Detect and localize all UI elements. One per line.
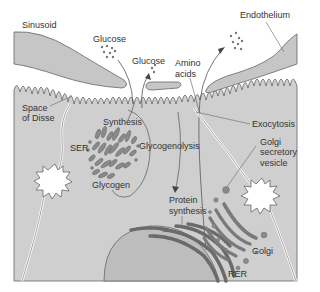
label-exocytosis: Exocytosis <box>252 119 295 129</box>
label-golgi: Golgi <box>252 246 273 256</box>
label-amino-acids-line1: Amino <box>175 58 201 68</box>
label-amino-acids-line2: acids <box>175 69 196 79</box>
label-glucose-1: Glucose <box>93 34 126 44</box>
label-glycogenolysis: Glycogenolysis <box>139 141 200 151</box>
label-endothelium: Endothelium <box>240 10 290 20</box>
label-protein-synthesis-line1: Protein <box>169 195 198 205</box>
label-space-of-disse-line1: Space <box>22 103 48 113</box>
label-golgi-secretory-line2: secretory <box>260 147 297 157</box>
endothelium-middle <box>146 82 181 90</box>
label-golgi-secretory-line3: vesicle <box>260 158 288 168</box>
label-ser: SER <box>70 143 89 153</box>
label-synthesis: Synthesis <box>103 117 142 127</box>
label-golgi-secretory-line1: Golgi <box>260 137 281 147</box>
label-space-of-disse-line2: of Disse <box>22 113 55 123</box>
label-glycogen: Glycogen <box>92 180 130 190</box>
glucose-molecules-1 <box>101 45 116 58</box>
label-glucose-2: Glucose <box>132 56 165 66</box>
label-rer: RER <box>228 269 247 279</box>
label-sinusoid: Sinusoid <box>22 20 57 30</box>
amino-acid-molecules <box>230 32 243 50</box>
endothelium-leader <box>266 22 284 52</box>
label-protein-synthesis-line2: synthesis <box>169 206 207 216</box>
